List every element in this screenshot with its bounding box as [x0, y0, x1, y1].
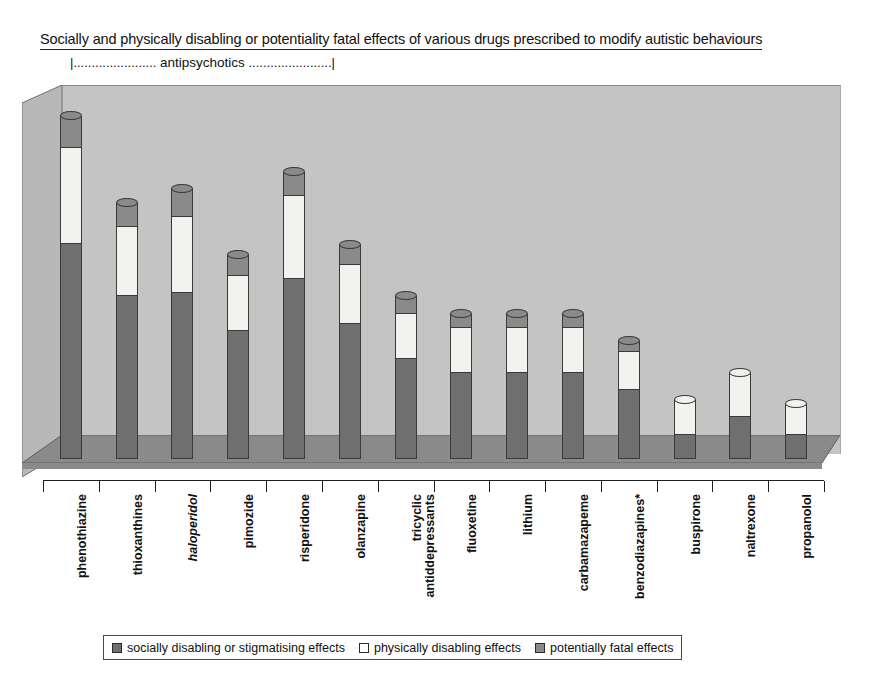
cylinder-cap: [339, 240, 361, 249]
bar-phenothiazine: [60, 116, 82, 459]
segment-physical: [729, 373, 751, 418]
x-label-line: phenothiazine: [76, 494, 89, 634]
x-label-fluoxetine: fluoxetine: [466, 494, 479, 634]
legend-item-fatal: potentially fatal effects: [535, 641, 673, 655]
bar-carbamazapeme: [562, 314, 584, 459]
segment-social: [450, 373, 472, 460]
x-label-naltrexone: naltrexone: [745, 494, 758, 634]
segment-physical: [674, 400, 696, 435]
x-label-olanzapine: olanzapine: [355, 494, 368, 634]
segment-fatal: [171, 189, 193, 217]
legend-swatch-physical-icon: [359, 643, 369, 653]
x-label-line: propanolol: [801, 494, 814, 634]
bracket-label: antipsychotics: [160, 55, 245, 70]
legend-label: socially disabling or stigmatising effec…: [127, 641, 345, 655]
chart-figure: Socially and physically disabling or pot…: [0, 0, 871, 681]
bar-risperidone: [283, 172, 305, 459]
cylinder-cap: [395, 291, 417, 300]
segment-fatal: [506, 314, 528, 328]
bar-olanzapine: [339, 245, 361, 460]
x-label-haloperidol: haloperidol: [187, 494, 200, 634]
bar-propanolol: [785, 404, 807, 459]
x-label-thioxanthines: thioxanthines: [132, 494, 145, 634]
segment-social: [785, 435, 807, 459]
segment-fatal: [395, 296, 417, 313]
x-axis-tick: [657, 481, 658, 492]
x-label-line: buspirone: [690, 494, 703, 634]
bar-lithium: [506, 314, 528, 459]
x-axis-tick: [489, 481, 490, 492]
segment-social: [339, 324, 361, 459]
legend-swatch-social-icon: [112, 643, 122, 653]
segment-fatal: [283, 172, 305, 196]
x-axis: [43, 480, 824, 493]
cylinder-cap: [674, 395, 696, 404]
x-axis-tick: [434, 481, 435, 492]
bar-thioxanthines: [116, 203, 138, 459]
x-axis-tick: [99, 481, 100, 492]
cylinder-cap: [506, 309, 528, 318]
bar-fluoxetine: [450, 314, 472, 459]
segment-physical: [339, 265, 361, 324]
x-axis-tick: [43, 481, 44, 492]
segment-fatal: [60, 116, 82, 147]
antipsychotics-bracket: |....................... antipsychotics …: [70, 55, 430, 77]
segment-physical: [785, 404, 807, 435]
x-label-carbamazapeme: carbamazapeme: [578, 494, 591, 634]
segment-fatal: [227, 255, 249, 276]
segment-fatal: [618, 341, 640, 351]
legend-item-social: socially disabling or stigmatising effec…: [112, 641, 345, 655]
bracket-right: .......................|: [249, 55, 335, 70]
bar-tricyclic-antidepressants: [395, 296, 417, 459]
title-block: Socially and physically disabling or pot…: [40, 30, 840, 50]
segment-physical: [618, 352, 640, 390]
legend-swatch-fatal-icon: [535, 643, 545, 653]
segment-physical: [283, 196, 305, 279]
x-axis-labels: phenothiazinethioxanthineshaloperidolpim…: [43, 494, 824, 634]
legend-item-physical: physically disabling effects: [359, 641, 521, 655]
x-label-line: pimozide: [243, 494, 256, 634]
bar-naltrexone: [729, 373, 751, 459]
segment-physical: [116, 227, 138, 296]
cylinder-cap: [227, 250, 249, 259]
x-label-line: antiddepressants: [424, 494, 437, 634]
chart-title: Socially and physically disabling or pot…: [40, 31, 762, 50]
bar-pimozide: [227, 255, 249, 459]
segment-social: [562, 373, 584, 460]
segment-social: [171, 293, 193, 459]
x-label-line: haloperidol: [187, 494, 200, 634]
x-axis-tick: [210, 481, 211, 492]
cylinder-cap: [618, 336, 640, 345]
x-label-line: thioxanthines: [132, 494, 145, 634]
segment-fatal: [450, 314, 472, 328]
bracket-left: |.......................: [70, 55, 156, 70]
segment-physical: [227, 276, 249, 331]
x-label-line: lithium: [522, 494, 535, 634]
cylinder-cap: [60, 111, 82, 120]
cylinder-cap: [116, 198, 138, 207]
bars-layer: [22, 85, 840, 477]
x-axis-tick: [545, 481, 546, 492]
segment-physical: [395, 314, 417, 359]
legend-label: physically disabling effects: [374, 641, 521, 655]
legend: socially disabling or stigmatising effec…: [103, 635, 682, 660]
x-label-line: benzodiazapines*: [634, 494, 647, 634]
cylinder-cap: [283, 167, 305, 176]
segment-social: [116, 296, 138, 459]
segment-fatal: [339, 245, 361, 266]
x-axis-tick: [824, 481, 825, 492]
x-axis-tick: [378, 481, 379, 492]
x-label-line: olanzapine: [355, 494, 368, 634]
segment-social: [618, 390, 640, 459]
x-label-propanolol: propanolol: [801, 494, 814, 634]
segment-physical: [60, 148, 82, 245]
segment-fatal: [562, 314, 584, 328]
x-axis-tick: [601, 481, 602, 492]
cylinder-cap: [785, 399, 807, 408]
cylinder-cap: [171, 184, 193, 193]
bar-haloperidol: [171, 189, 193, 459]
x-axis-tick: [266, 481, 267, 492]
x-label-line: tricyclic: [411, 494, 424, 634]
segment-social: [674, 435, 696, 459]
x-label-line: naltrexone: [745, 494, 758, 634]
